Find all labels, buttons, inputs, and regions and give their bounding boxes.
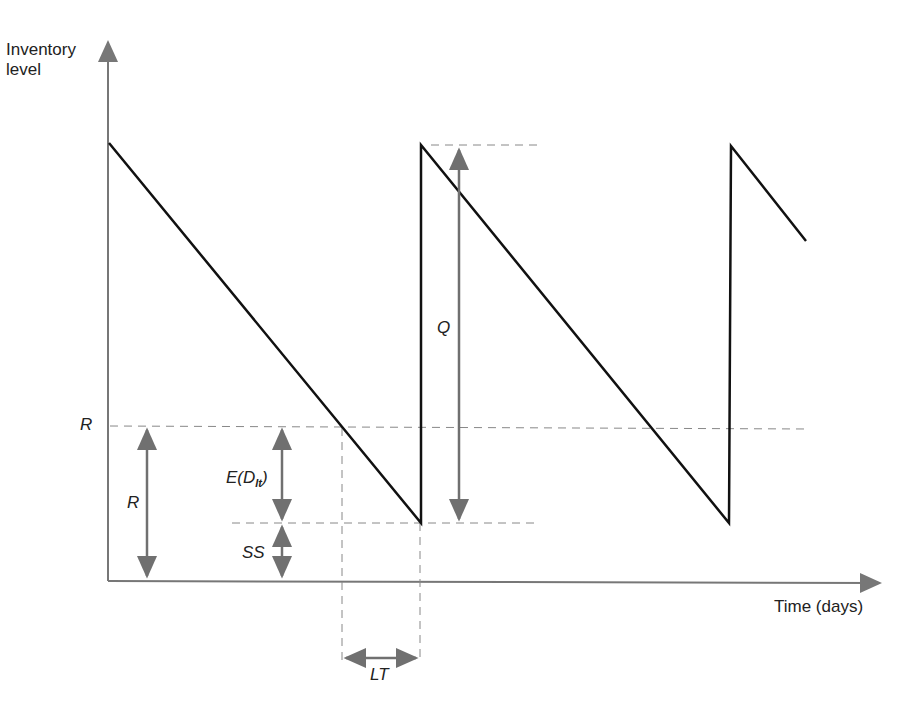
x-axis xyxy=(108,581,880,583)
order-quantity-label: Q xyxy=(437,318,450,338)
y-axis-label: Inventory level xyxy=(6,40,76,79)
reorder-point-dimension-label: R xyxy=(127,493,139,513)
inventory-level-line xyxy=(109,143,806,523)
reorder-point-axis-label: R xyxy=(80,415,92,435)
y-axis-label-line2: level xyxy=(6,60,76,80)
expected-demand-label: E(Dlt) xyxy=(226,468,268,490)
x-axis-label: Time (days) xyxy=(774,597,863,617)
y-axis-label-line1: Inventory xyxy=(6,40,76,60)
safety-stock-label: SS xyxy=(242,543,265,563)
lead-time-label: LT xyxy=(370,665,389,685)
